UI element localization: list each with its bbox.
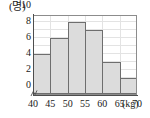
histogram-chart: (명) 0246810 40455055606570 (kg) <box>0 0 150 118</box>
histogram-bar <box>68 22 86 94</box>
x-axis-unit-label: (kg) <box>122 99 139 109</box>
histogram-bar <box>102 62 120 94</box>
histogram-bar <box>50 38 68 94</box>
plot-area <box>33 15 137 95</box>
histogram-bar <box>120 78 137 94</box>
y-axis-tick-labels: 0246810 <box>5 15 31 95</box>
y-axis-tick-label: 0 <box>9 80 31 90</box>
y-axis-line <box>33 14 34 96</box>
y-axis-tick-label: 2 <box>9 64 31 74</box>
y-axis-tick-label: 10 <box>9 0 31 10</box>
y-axis-tick-label: 4 <box>9 48 31 58</box>
x-axis-line <box>33 95 138 96</box>
histogram-bar <box>85 30 103 94</box>
y-axis-tick-label: 8 <box>9 16 31 26</box>
y-axis-tick-label: 6 <box>9 32 31 42</box>
